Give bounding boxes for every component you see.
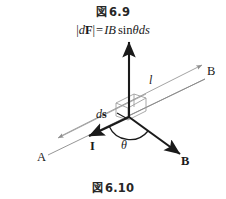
zu-figure-kanji-icon: 図 [92,179,103,195]
magnetic-field-label-B: B [181,155,189,168]
vector-diagram [0,0,226,199]
current-label-I: I [90,140,95,153]
field-line-label-l: l [149,74,152,86]
conductor-start-label-A: A [37,151,46,164]
figure-caption-bottom: 図6.10 [0,179,226,195]
theta-angle-arc [109,126,148,140]
magnetic-field-B-arrow [129,117,180,154]
ds-element-tick [117,113,126,118]
figure-page: 図6.9 |dF|=IBsinθds [0,0,226,199]
figure-caption-bottom-number: 6.10 [105,181,134,195]
angle-label-theta: θ [121,139,127,151]
field-line-end-label-B: B [207,65,215,78]
ds-label-s-vector: s [102,107,107,121]
ds-element-label: ds [96,108,107,120]
